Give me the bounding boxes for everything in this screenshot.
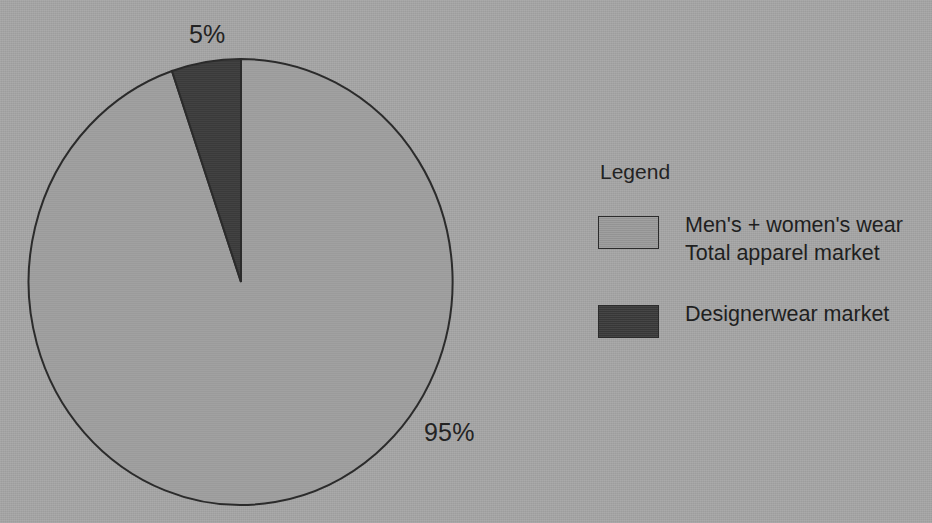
legend-label-apparel: Men's + women's wear Total apparel marke… [685,212,903,267]
pie-chart-svg [0,0,560,523]
legend: Legend Men's + women's wear Total appare… [598,160,928,372]
legend-label-designerwear-line1: Designerwear market [685,301,889,329]
pie-chart: 5% 95% [0,0,560,523]
legend-label-designerwear: Designerwear market [685,301,889,329]
legend-title: Legend [600,160,928,184]
legend-label-apparel-line2: Total apparel market [685,240,903,268]
legend-item-apparel: Men's + women's wear Total apparel marke… [598,212,928,267]
legend-item-designerwear: Designerwear market [598,301,928,338]
legend-swatch-designerwear [598,305,659,338]
slice-label-designerwear: 5% [189,20,226,49]
legend-swatch-apparel [598,216,659,249]
slice-label-apparel: 95% [424,418,475,447]
page-background: 5% 95% Legend Men's + women's wear Total… [0,0,932,523]
legend-label-apparel-line1: Men's + women's wear [685,212,903,240]
